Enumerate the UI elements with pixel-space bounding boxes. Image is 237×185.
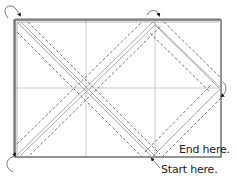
stitch-lines bbox=[17, 22, 221, 157]
start-here-label: Start here. bbox=[161, 163, 217, 176]
grid-lines bbox=[15, 20, 221, 157]
turn-arrow-top-center bbox=[147, 11, 159, 16]
end-here-label: End here. bbox=[179, 143, 230, 156]
direction-arrows bbox=[44, 39, 203, 135]
stitching-diagram bbox=[0, 0, 237, 185]
start-pointer bbox=[152, 159, 160, 168]
turn-arrow-top-left bbox=[5, 6, 20, 18]
fold-lines bbox=[17, 22, 221, 157]
turn-arrow-right-middle bbox=[222, 82, 226, 96]
